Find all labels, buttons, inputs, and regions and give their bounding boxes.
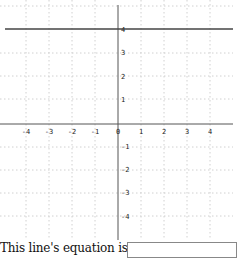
x-tick-label: 1 (139, 128, 143, 136)
y-tick-label: 3 (121, 49, 125, 57)
x-tick-label: 3 (185, 128, 189, 136)
x-tick-label: -2 (68, 128, 76, 136)
y-tick-label: 2 (121, 73, 125, 81)
y-tick-label: -1 (121, 143, 129, 151)
y-tick-label: 1 (121, 96, 125, 104)
x-tick-labels: -4 -3 -2 -1 0 1 2 3 4 (22, 128, 212, 136)
y-tick-label: -3 (121, 189, 129, 197)
grid-lines (0, 0, 233, 240)
x-tick-label: -1 (91, 128, 99, 136)
x-tick-label: -4 (22, 128, 30, 136)
y-tick-label: -4 (121, 213, 129, 221)
x-tick-label: 0 (116, 128, 120, 136)
equation-question: This line's equation is (0, 240, 233, 255)
coordinate-graph: -4 -3 -2 -1 0 1 2 3 4 4 3 2 1 -1 -2 -3 -… (0, 0, 233, 240)
y-tick-label: 4 (121, 26, 125, 34)
y-tick-label: -2 (121, 166, 129, 174)
x-tick-label: -3 (45, 128, 53, 136)
equation-answer-input[interactable] (127, 242, 237, 258)
x-tick-label: 4 (208, 128, 212, 136)
x-tick-label: 2 (162, 128, 166, 136)
question-prompt: This line's equation is (0, 241, 128, 255)
